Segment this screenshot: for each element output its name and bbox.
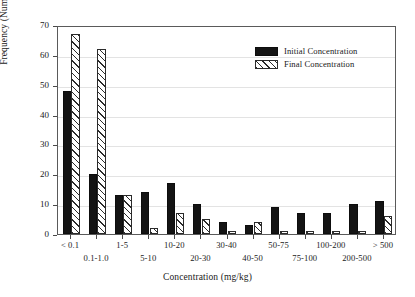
x-tick-label: 75-100 [279,253,331,263]
bar-initial [167,183,175,234]
legend-label-initial: Initial Concentration [284,46,357,56]
x-tick-mark [174,235,175,239]
bar-group [63,27,80,234]
y-axis-title: Frequency (Number of Samples) [0,0,9,96]
bar-group [89,27,106,234]
y-tick-label: 50 [19,81,49,90]
bar-group [375,27,392,234]
bar-group [193,27,210,234]
x-tick-label: 40-50 [227,253,279,263]
x-tick-mark [305,235,306,239]
bar-final [176,213,184,234]
y-tick-label: 30 [19,140,49,149]
x-tick-label: > 500 [357,240,409,250]
x-tick-mark [70,235,71,239]
bar-group [141,27,158,234]
bar-final [123,195,131,234]
x-tick-label: 200-500 [331,253,383,263]
bar-group [219,27,236,234]
x-tick-label: 100-200 [305,240,357,250]
x-tick-mark [279,235,280,239]
bar-initial [219,222,227,234]
y-tick-label: 70 [19,21,49,30]
bar-final [306,231,314,234]
bar-initial [115,195,123,234]
solid-black-swatch-icon [255,47,278,56]
x-tick-label: 20-30 [174,253,226,263]
x-tick-label: 0.1-1.0 [70,253,122,263]
bar-initial [297,213,305,234]
bar-final [228,231,236,234]
x-tick-mark [122,235,123,239]
x-tick-mark [96,235,97,239]
bar-final [202,219,210,234]
x-tick-mark [200,235,201,239]
x-axis-title: Concentration (mg/kg) [0,272,415,282]
legend-label-final: Final Concentration [284,59,354,69]
y-tick-mark [53,235,57,236]
bar-initial [89,174,97,234]
bar-initial [349,204,357,234]
y-tick-label: 60 [19,51,49,60]
bar-chart: Frequency (Number of Samples) 0102030405… [0,0,415,297]
bar-final [254,222,262,234]
legend-item-final: Final Concentration [255,59,357,69]
y-tick-label: 40 [19,111,49,120]
y-tick-label: 0 [19,230,49,239]
bar-final [384,216,392,234]
x-tick-label: 30-40 [201,240,253,250]
bar-final [150,228,158,234]
hatched-swatch-icon [255,60,278,69]
y-tick-label: 10 [19,200,49,209]
x-tick-mark [357,235,358,239]
bar-initial [141,192,149,234]
legend-item-initial: Initial Concentration [255,46,357,56]
bar-initial [375,201,383,234]
chart-legend: Initial Concentration Final Concentratio… [255,46,357,72]
x-tick-label: 5-10 [122,253,174,263]
bar-initial [323,213,331,234]
bar-group [167,27,184,234]
bar-initial [245,225,253,234]
x-tick-label: 50-75 [253,240,305,250]
bar-initial [63,91,71,234]
bar-final [332,231,340,234]
x-tick-mark [383,235,384,239]
x-tick-label: < 0.1 [44,240,96,250]
bar-final [358,231,366,234]
x-tick-label: 10-20 [148,240,200,250]
bar-initial [271,207,279,234]
x-tick-mark [253,235,254,239]
bar-group [115,27,132,234]
x-tick-label: 1-5 [96,240,148,250]
x-tick-mark [331,235,332,239]
bar-final [71,34,79,234]
bar-final [97,49,105,234]
x-tick-mark [148,235,149,239]
bar-final [280,231,288,234]
x-tick-mark [227,235,228,239]
bar-initial [193,204,201,234]
y-tick-label: 20 [19,170,49,179]
